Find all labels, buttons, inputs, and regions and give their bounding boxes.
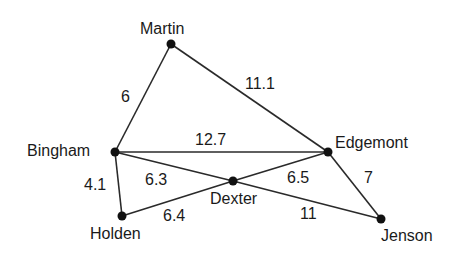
edge-weight-holden-dexter: 6.4 [163, 208, 185, 224]
weighted-graph [0, 0, 470, 257]
edge-bingham-holden [115, 152, 122, 216]
node-label-edgemont: Edgemont [335, 135, 408, 151]
node-label-holden: Holden [90, 226, 141, 242]
node-label-jenson: Jenson [381, 228, 433, 244]
edge-weight-martin-bingham: 6 [121, 89, 130, 105]
node-jenson [377, 215, 386, 224]
node-bingham [111, 148, 120, 157]
edge-edgemont-jenson [328, 152, 381, 219]
edge-weight-bingham-edgemont: 12.7 [195, 132, 226, 148]
node-martin [167, 40, 176, 49]
node-label-dexter: Dexter [210, 191, 257, 207]
edge-weight-martin-edgemont: 11.1 [245, 76, 275, 92]
edge-weight-dexter-edgemont: 6.5 [287, 170, 309, 186]
edge-weight-edgemont-jenson: 7 [364, 170, 373, 186]
node-holden [118, 212, 127, 221]
edge-weight-bingham-holden: 4.1 [84, 177, 106, 193]
edge-bingham-dexter [115, 152, 233, 181]
node-label-martin: Martin [140, 21, 184, 37]
edge-weight-dexter-jenson: 11 [300, 206, 317, 222]
node-label-bingham: Bingham [27, 143, 90, 159]
node-edgemont [324, 148, 333, 157]
edge-dexter-edgemont [233, 152, 328, 181]
node-dexter [229, 177, 238, 186]
edge-weight-bingham-dexter: 6.3 [145, 172, 167, 188]
